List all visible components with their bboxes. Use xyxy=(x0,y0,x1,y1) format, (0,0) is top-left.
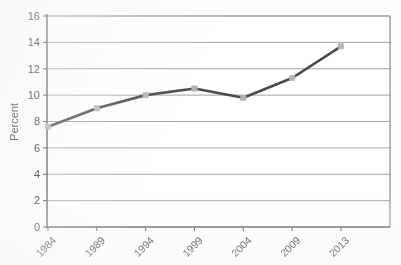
y-tick-label: 12 xyxy=(28,63,40,75)
x-tick-label: 1999 xyxy=(180,234,205,259)
data-point-marker xyxy=(241,95,246,100)
data-point-marker xyxy=(289,75,294,80)
chart-container: 0246810121416 19841989199419992004200920… xyxy=(0,0,401,265)
y-axis-title: Percent xyxy=(8,103,20,141)
y-tick-label: 0 xyxy=(34,221,40,233)
y-tick-label: 6 xyxy=(34,142,40,154)
data-point-marker xyxy=(338,44,343,49)
x-tick-label: 1989 xyxy=(82,234,107,259)
x-tick-label: 2004 xyxy=(229,234,254,259)
x-tick-label: 1994 xyxy=(131,234,156,259)
x-tick-label: 2013 xyxy=(326,234,351,259)
data-point-marker xyxy=(143,92,148,97)
line-chart: 0246810121416 19841989199419992004200920… xyxy=(0,0,401,265)
y-tick-label: 14 xyxy=(28,36,40,48)
x-tick-label: 2009 xyxy=(278,234,303,259)
y-axis-tick-labels: 0246810121416 xyxy=(28,10,40,233)
y-tick-label: 4 xyxy=(34,168,40,180)
x-axis-tick-labels: 1984198919941999200420092013 xyxy=(33,234,351,259)
y-tick-label: 10 xyxy=(28,89,40,101)
y-tick-label: 16 xyxy=(28,10,40,22)
data-point-marker xyxy=(94,106,99,111)
y-tick-label: 2 xyxy=(34,194,40,206)
x-tick-label: 1984 xyxy=(33,234,58,259)
data-point-marker xyxy=(192,86,197,91)
y-tick-label: 8 xyxy=(34,115,40,127)
data-point-marker xyxy=(45,124,50,129)
